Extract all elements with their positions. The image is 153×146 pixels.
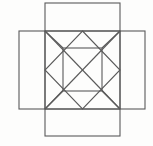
connector-bl <box>45 91 63 109</box>
net-diagram-svg <box>0 0 153 146</box>
connector-tr <box>102 31 120 48</box>
right-flap <box>120 31 145 109</box>
left-flap <box>19 31 45 109</box>
bottom-flap <box>45 109 120 136</box>
net-shape-group <box>19 3 145 136</box>
top-flap <box>45 3 120 31</box>
figure-root <box>0 0 153 146</box>
connector-br <box>102 91 120 109</box>
connector-tl <box>45 31 63 48</box>
